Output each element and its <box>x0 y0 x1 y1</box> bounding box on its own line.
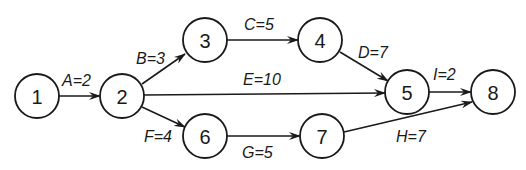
svg-text:7: 7 <box>316 126 327 148</box>
node-2: 2 <box>100 74 144 118</box>
svg-text:5: 5 <box>401 82 412 104</box>
edge-label-e: E=10 <box>243 71 281 88</box>
svg-text:8: 8 <box>487 82 498 104</box>
svg-text:1: 1 <box>31 86 42 108</box>
node-6: 6 <box>183 114 227 158</box>
edge-label-i: I=2 <box>433 66 456 83</box>
edge-label-h: H=7 <box>396 128 427 145</box>
edge-label-g: G=5 <box>242 144 273 161</box>
node-4: 4 <box>298 18 342 62</box>
svg-text:2: 2 <box>116 86 127 108</box>
edge-label-a: A=2 <box>61 72 91 89</box>
network-diagram: A=2 B=3 C=5 D=7 E=10 F=4 G=5 H=7 I=2 1 2… <box>0 0 526 170</box>
node-5: 5 <box>385 70 429 114</box>
edge-label-c: C=5 <box>244 16 274 33</box>
node-7: 7 <box>300 114 344 158</box>
svg-text:4: 4 <box>314 30 325 52</box>
svg-text:3: 3 <box>199 30 210 52</box>
node-8: 8 <box>471 70 515 114</box>
edge-e <box>144 93 385 95</box>
node-3: 3 <box>183 18 227 62</box>
edge-label-f: F=4 <box>144 128 172 145</box>
edge-label-b: B=3 <box>136 50 165 67</box>
edge-label-d: D=7 <box>358 44 389 61</box>
edge-f <box>142 107 185 127</box>
node-1: 1 <box>15 74 59 118</box>
svg-text:6: 6 <box>199 126 210 148</box>
